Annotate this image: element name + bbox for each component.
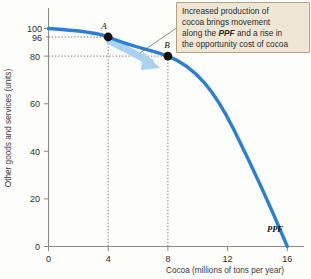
y-tick-label: 40	[30, 147, 40, 157]
x-tick-label: 4	[106, 254, 111, 264]
ppf-series-label: PPF	[267, 224, 283, 234]
x-tick-label: 8	[165, 254, 170, 264]
data-point-b-label: B	[164, 40, 170, 50]
y-tick-label: 96	[32, 33, 42, 43]
callout-annotation: Increased production of cocoa brings mov…	[177, 3, 310, 53]
x-tick-label: 12	[223, 254, 233, 264]
callout-line-4: the opportunity cost of cocoa	[182, 39, 288, 49]
y-tick-label: 0	[35, 242, 40, 252]
y-tick-label: 80	[30, 52, 40, 62]
x-axis-title: Cocoa (millions of tons per year)	[166, 266, 284, 275]
data-point-b[interactable]	[164, 52, 173, 61]
x-tick-label: 0	[46, 254, 51, 264]
callout-line-2: cocoa brings movement	[182, 17, 271, 27]
callout-ppf-emphasis: PPF	[218, 28, 235, 38]
x-tick-label: 16	[282, 254, 292, 264]
y-tick-label: 60	[30, 99, 40, 109]
y-tick-label: 20	[30, 194, 40, 204]
ppf-chart: 0 20 40 60 80 96 100 0 4 8 12 16 Other g…	[0, 0, 311, 279]
callout-line-1: Increased production of	[182, 6, 269, 16]
y-tick-label: 100	[27, 24, 42, 34]
callout-line-3: along the PPF and a rise in	[182, 28, 282, 38]
data-point-a-label: A	[100, 21, 107, 31]
data-point-a[interactable]	[104, 33, 113, 42]
y-axis-title: Other goods and services (units)	[4, 69, 13, 188]
